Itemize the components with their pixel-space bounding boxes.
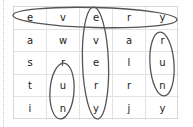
grid-cell: s <box>14 52 47 75</box>
grid-cell: r <box>146 30 179 53</box>
grid-cell: r <box>113 75 146 98</box>
grid-cell: j <box>113 97 146 120</box>
grid-cell: r <box>80 75 113 98</box>
grid-cell: e <box>80 7 113 30</box>
grid-cell: r <box>113 7 146 30</box>
grid-cell: n <box>47 97 80 120</box>
grid-cell: w <box>47 30 80 53</box>
grid-cell: u <box>47 75 80 98</box>
grid-cell: e <box>14 7 47 30</box>
grid-cell: r <box>47 52 80 75</box>
grid-cell: y <box>80 97 113 120</box>
grid-cell: n <box>146 75 179 98</box>
dotted-margin-line <box>3 0 4 127</box>
grid-cell: a <box>113 30 146 53</box>
grid-cell: v <box>47 7 80 30</box>
grid-cell: e <box>80 52 113 75</box>
grid-cell: y <box>146 7 179 30</box>
grid-cell: t <box>14 75 47 98</box>
grid-cell: u <box>146 52 179 75</box>
grid-cell: a <box>14 30 47 53</box>
word-search-grid: everyawvarsreluturrninyjy <box>13 6 178 119</box>
grid-cell: l <box>113 52 146 75</box>
grid-cell: y <box>146 97 179 120</box>
grid-cell: i <box>14 97 47 120</box>
grid-cell: v <box>80 30 113 53</box>
